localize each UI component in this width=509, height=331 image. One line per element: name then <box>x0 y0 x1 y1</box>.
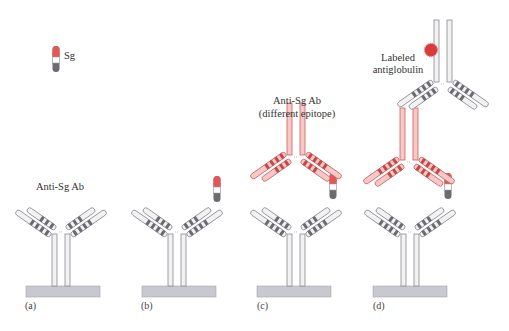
solid-phase-plate <box>373 286 447 297</box>
panel-a <box>15 46 108 297</box>
antigen-label: Sg <box>64 50 75 62</box>
panel-b <box>131 176 224 297</box>
panel-letter-c: (c) <box>257 300 268 311</box>
capture-antibody <box>250 202 343 286</box>
panel-c-caption-line1: Anti-Sg Ab <box>273 95 321 107</box>
panel-d-caption-line1: Labeled <box>381 52 415 64</box>
panel-a-caption: Anti-Sg Ab <box>36 181 84 193</box>
sandwich-elisa-diagram <box>0 0 509 331</box>
solid-phase-plate <box>257 286 331 297</box>
detection-antibody <box>363 108 456 192</box>
enzyme-label-icon <box>425 44 438 57</box>
solid-phase-plate <box>142 286 216 297</box>
panel-d-caption-line2: antiglobulin <box>373 64 424 76</box>
capture-antibody <box>15 202 108 286</box>
capture-antibody <box>364 202 457 286</box>
bound-antigen <box>214 176 221 202</box>
panel-c-caption-line2: (different epitope) <box>259 108 335 120</box>
capture-antibody <box>131 202 224 286</box>
antigen-legend-icon <box>53 46 60 72</box>
panel-letter-d: (d) <box>373 300 385 311</box>
solid-phase-plate <box>26 286 100 297</box>
panel-letter-b: (b) <box>141 300 153 311</box>
panel-letter-a: (a) <box>25 300 36 311</box>
panel-c <box>250 103 343 297</box>
